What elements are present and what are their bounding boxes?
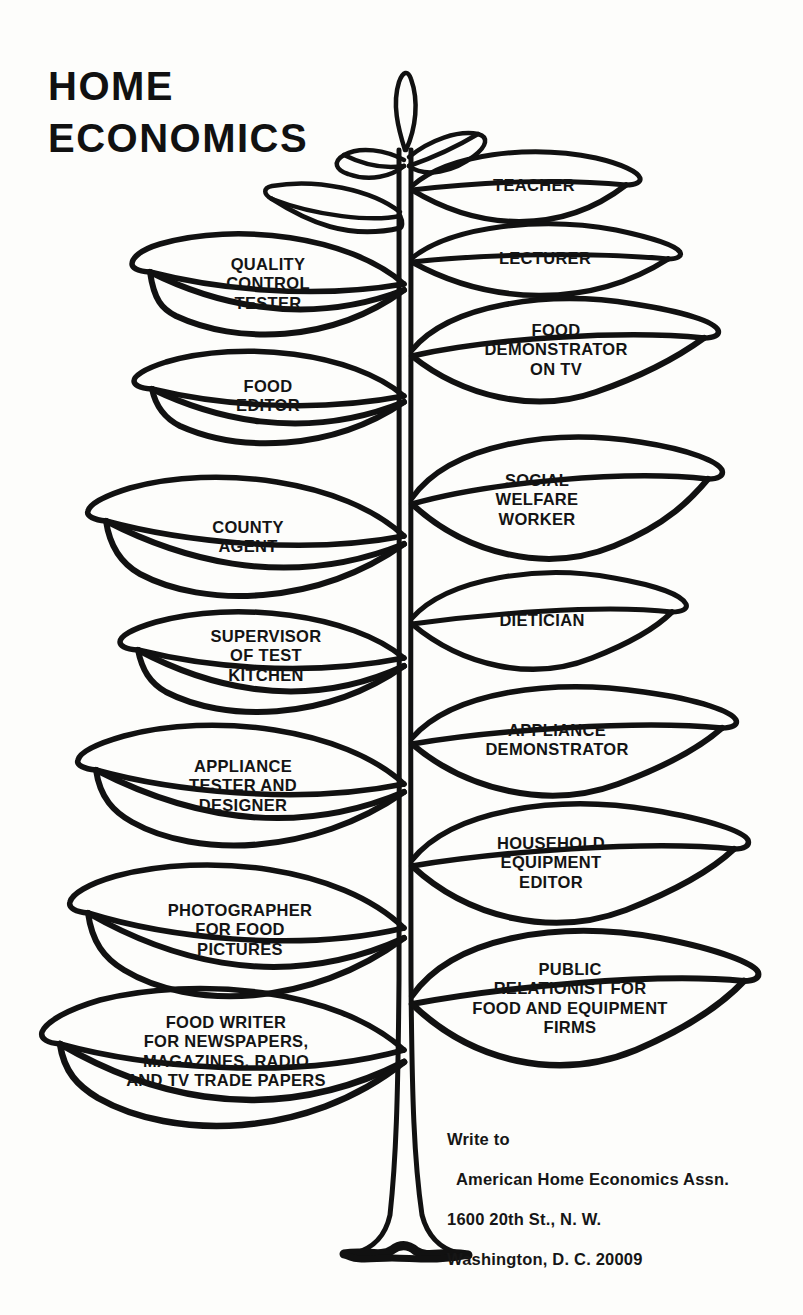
address-line-write-to: Write to [447, 1130, 510, 1148]
page-title: HOME ECONOMICS [48, 60, 308, 164]
address-line-city-state-zip: Washington, D. C. 20009 [447, 1250, 643, 1268]
contact-address-block: Write to American Home Economics Assn. 1… [447, 1109, 729, 1269]
poster-canvas: HOME ECONOMICS QUALITY CONTROL TESTER FO… [0, 0, 803, 1315]
address-line-organization: American Home Economics Assn. [447, 1169, 729, 1189]
address-line-street: 1600 20th St., N. W. [447, 1210, 601, 1228]
left-leaf-shapes [42, 184, 404, 1127]
right-leaf-shapes [412, 152, 758, 1065]
